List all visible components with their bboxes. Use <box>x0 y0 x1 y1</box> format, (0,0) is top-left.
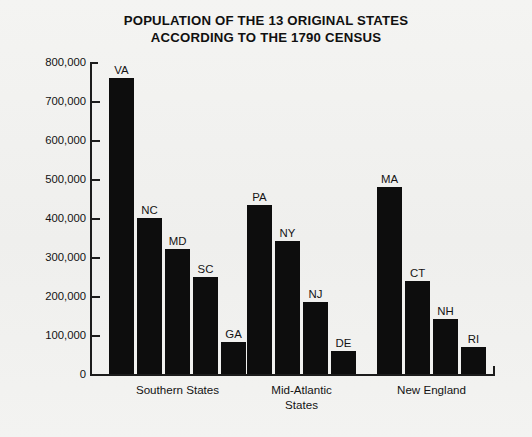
y-axis-tick-mark <box>92 257 100 259</box>
y-axis-tick-label: 500,000 <box>45 173 86 185</box>
bar-ga[interactable]: GA <box>221 342 246 374</box>
bar-group: MACTNHRI <box>377 62 486 374</box>
bar-ri[interactable]: RI <box>461 347 486 374</box>
y-axis-tick-label: 0 <box>80 368 86 380</box>
y-axis-tick-label: 800,000 <box>45 56 86 68</box>
y-axis-tick-mark <box>92 101 100 103</box>
bar-nh[interactable]: NH <box>433 319 458 374</box>
bar-label-va: VA <box>114 64 128 76</box>
y-axis-top-cap <box>90 62 98 64</box>
bar-label-md: MD <box>169 235 187 247</box>
bar-label-de: DE <box>336 337 352 349</box>
bar-ct[interactable]: CT <box>405 281 430 374</box>
bar-label-ma: MA <box>381 173 398 185</box>
bar-nc[interactable]: NC <box>137 218 162 374</box>
group-label-new-england: New England <box>352 382 512 397</box>
y-axis-tick-label: 400,000 <box>45 212 86 224</box>
y-axis-tick-mark <box>92 218 100 220</box>
y-axis-tick-mark <box>92 140 100 142</box>
chart-title: POPULATION OF THE 13 ORIGINAL STATES ACC… <box>0 12 532 46</box>
y-axis-tick-label: 600,000 <box>45 134 86 146</box>
y-axis-tick-label: 300,000 <box>45 251 86 263</box>
bar-group: PANYNJDE <box>247 62 356 374</box>
bar-ma[interactable]: MA <box>377 187 402 374</box>
bar-label-nc: NC <box>141 204 157 216</box>
plot-area: 0100,000200,000300,000400,000500,000600,… <box>92 62 495 374</box>
bar-va[interactable]: VA <box>109 78 134 374</box>
bar-label-ri: RI <box>468 333 479 345</box>
y-axis-tick-mark <box>92 296 100 298</box>
bar-label-ga: GA <box>225 328 241 340</box>
bar-nj[interactable]: NJ <box>303 302 328 374</box>
bar-de[interactable]: DE <box>331 351 356 374</box>
bar-label-sc: SC <box>198 263 214 275</box>
chart-title-line-1: POPULATION OF THE 13 ORIGINAL STATES <box>124 13 409 28</box>
bar-label-nh: NH <box>437 305 453 317</box>
y-axis-tick-label: 700,000 <box>45 95 86 107</box>
chart-title-line-2: ACCORDING TO THE 1790 CENSUS <box>0 29 532 46</box>
y-axis-tick-mark <box>92 335 100 337</box>
y-axis-tick-mark <box>92 374 100 376</box>
chart-figure: POPULATION OF THE 13 ORIGINAL STATES ACC… <box>0 0 532 437</box>
y-axis-tick-label: 100,000 <box>45 329 86 341</box>
bar-group: VANCMDSCGA <box>109 62 246 374</box>
bar-md[interactable]: MD <box>165 249 190 374</box>
bar-label-ct: CT <box>410 267 425 279</box>
bar-label-ny: NY <box>280 227 296 239</box>
bar-label-pa: PA <box>252 191 266 203</box>
bar-pa[interactable]: PA <box>247 205 272 374</box>
y-axis-tick-mark <box>92 179 100 181</box>
x-axis-line <box>90 374 495 376</box>
bar-sc[interactable]: SC <box>193 277 218 374</box>
bar-label-nj: NJ <box>309 288 323 300</box>
bar-ny[interactable]: NY <box>275 241 300 374</box>
y-axis-tick-label: 200,000 <box>45 290 86 302</box>
x-axis-end-cap <box>493 366 495 376</box>
